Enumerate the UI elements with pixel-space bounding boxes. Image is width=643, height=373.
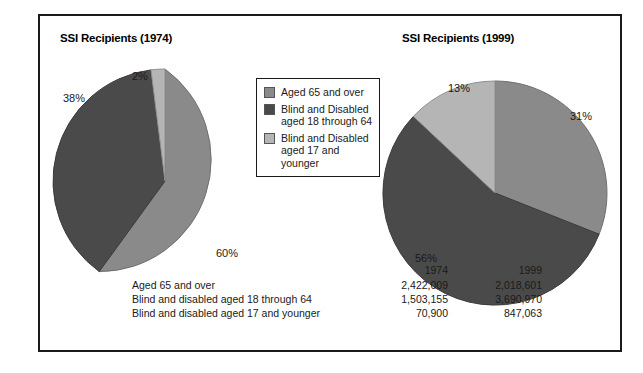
table-cell-label: Blind and disabled aged 18 through 64 (132, 293, 364, 307)
table-header-category (132, 264, 364, 279)
legend-swatch-icon (264, 133, 275, 144)
table-header-1974: 1974 (364, 264, 458, 279)
table-cell-1974: 2,422,009 (364, 279, 458, 293)
table-header-row: 1974 1999 (132, 264, 552, 279)
legend-item-label: Blind and Disabled aged 17 and younger (281, 132, 373, 170)
legend-item-aged-65-and-over: Aged 65 and over (264, 86, 373, 99)
table-cell-1999: 3,690,970 (458, 293, 552, 307)
pie-1999-label-blind-disabled-18-64: 56% (415, 252, 437, 264)
table-row: Aged 65 and over 2,422,009 2,018,601 (132, 279, 552, 293)
pie-1974-label-aged-65-and-over: 60% (216, 247, 238, 259)
table-cell-1999: 847,063 (458, 307, 552, 321)
data-table: 1974 1999 Aged 65 and over 2,422,009 2,0… (132, 264, 552, 321)
legend-item-label: Aged 65 and over (281, 86, 364, 99)
legend: Aged 65 and over Blind and Disabled aged… (256, 78, 380, 177)
chart-title-1974: SSI Recipients (1974) (60, 32, 172, 44)
table-row: Blind and disabled aged 17 and younger 7… (132, 307, 552, 321)
table-cell-label: Aged 65 and over (132, 279, 364, 293)
legend-swatch-icon (264, 104, 275, 115)
legend-item-blind-disabled-17-younger: Blind and Disabled aged 17 and younger (264, 132, 373, 170)
legend-swatch-icon (264, 87, 275, 98)
table-header-1999: 1999 (458, 264, 552, 279)
table-cell-1999: 2,018,601 (458, 279, 552, 293)
pie-1974-label-blind-disabled-17-younger: 2% (132, 70, 148, 82)
table-cell-1974: 70,900 (364, 307, 458, 321)
legend-item-label: Blind and Disabled aged 18 through 64 (281, 103, 373, 128)
table-cell-1974: 1,503,155 (364, 293, 458, 307)
pie-1999-label-aged-65-and-over: 31% (570, 110, 592, 122)
chart-title-1999: SSI Recipients (1999) (402, 32, 514, 44)
table-cell-label: Blind and disabled aged 17 and younger (132, 307, 364, 321)
figure-frame: SSI Recipients (1974) 2% 38% 60% SSI Rec… (38, 14, 622, 352)
pie-1999-label-blind-disabled-17-younger: 13% (448, 82, 470, 94)
legend-item-blind-disabled-18-64: Blind and Disabled aged 18 through 64 (264, 103, 373, 128)
table-row: Blind and disabled aged 18 through 64 1,… (132, 293, 552, 307)
pie-1974-label-blind-disabled-18-64: 38% (63, 92, 85, 104)
